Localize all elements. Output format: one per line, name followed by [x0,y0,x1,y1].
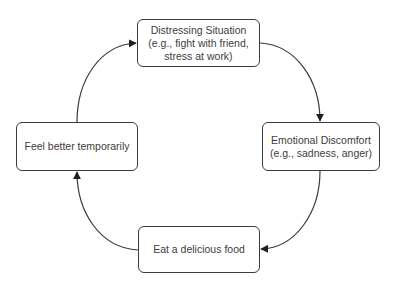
cycle-diagram: Distressing Situation (e.g., fight with … [0,0,396,287]
node-distressing-situation: Distressing Situation (e.g., fight with … [137,19,260,67]
edge-better-to-distressing [77,43,136,122]
edge-distressing-to-discomfort [260,43,320,121]
edge-discomfort-to-eat [261,171,320,249]
node-label-line: (e.g., fight with friend, [148,37,248,50]
node-label-line: stress at work) [148,50,248,63]
node-label-line: (e.g., sadness, anger) [270,147,372,160]
node-eat-delicious-food: Eat a delicious food [138,226,260,273]
node-label-line: Emotional Discomfort [270,134,372,147]
node-label-line: Distressing Situation [148,24,248,37]
node-label-line: Eat a delicious food [153,243,245,256]
edge-eat-to-better [77,172,138,250]
node-label-line: Feel better temporarily [24,140,129,153]
node-emotional-discomfort: Emotional Discomfort (e.g., sadness, ang… [262,122,380,171]
node-feel-better-temporarily: Feel better temporarily [16,122,138,171]
